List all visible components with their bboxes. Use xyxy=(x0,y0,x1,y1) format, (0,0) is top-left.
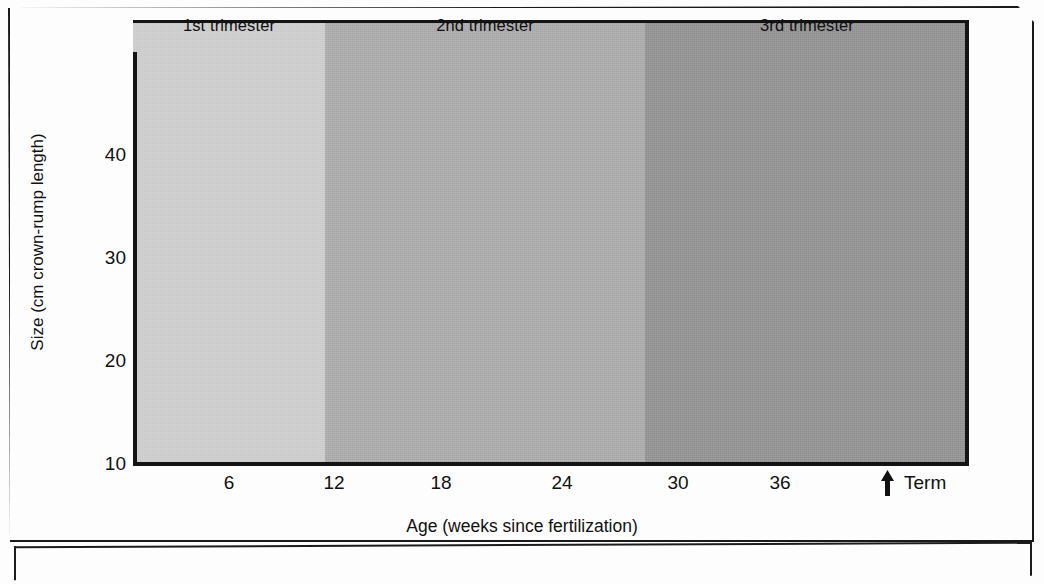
trimester-band-1-label: 1st trimester xyxy=(133,16,325,35)
plot-area xyxy=(133,22,969,465)
y-tick-40: 40 xyxy=(66,144,126,166)
y-axis-line xyxy=(133,52,137,464)
x-axis-label: Age (weeks since fertilization) xyxy=(0,516,1044,537)
up-arrow-icon xyxy=(880,470,895,496)
y-axis-label: Size (cm crown-rump length) xyxy=(28,52,48,432)
y-tick-10: 10 xyxy=(66,453,126,475)
trimester-band-2-label: 2nd trimester xyxy=(325,16,645,35)
x-tick-36: 36 xyxy=(750,472,810,494)
trimester-band-3-label: 3rd trimester xyxy=(645,16,969,35)
x-tick-24: 24 xyxy=(532,472,592,494)
x-tick-12: 12 xyxy=(304,472,364,494)
x-tick-18: 18 xyxy=(411,472,471,494)
y-tick-30: 30 xyxy=(66,247,126,269)
trimester-band-1 xyxy=(133,22,325,465)
y-tick-20: 20 xyxy=(66,350,126,372)
x-tick-6: 6 xyxy=(199,472,259,494)
y-tick-labels: 10 20 30 40 xyxy=(58,0,126,584)
x-tick-30: 30 xyxy=(648,472,708,494)
term-marker: Term xyxy=(880,470,946,496)
fetal-growth-figure: 1st trimester 2nd trimester 3rd trimeste… xyxy=(0,0,1044,584)
figure-caption-frame xyxy=(14,542,1032,580)
plot-right-border xyxy=(965,22,969,466)
x-axis-line xyxy=(133,462,969,466)
trimester-band-3 xyxy=(645,22,969,465)
trimester-band-2 xyxy=(325,22,645,465)
term-label: Term xyxy=(904,472,946,494)
